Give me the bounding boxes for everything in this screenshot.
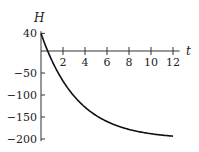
axes [41,31,180,141]
x-tick-label: 8 [126,56,133,69]
y-tick-label: −200 [7,133,37,146]
y-tick-label: −50 [14,67,37,80]
y-tick-label: −100 [7,89,37,102]
chart: 2468101240−50−100−150−200 H t [0,0,199,152]
x-tick-label: 2 [60,56,67,69]
x-tick-label: 12 [166,56,180,69]
y-axis-label: H [33,11,45,25]
x-axis-label: t [186,44,191,58]
x-tick-label: 10 [144,56,158,69]
x-tick-label: 4 [82,56,89,69]
y-tick-label: 40 [23,27,37,40]
y-tick-label: −150 [7,111,37,124]
ticks: 2468101240−50−100−150−200 [7,27,180,146]
x-tick-label: 6 [104,56,111,69]
